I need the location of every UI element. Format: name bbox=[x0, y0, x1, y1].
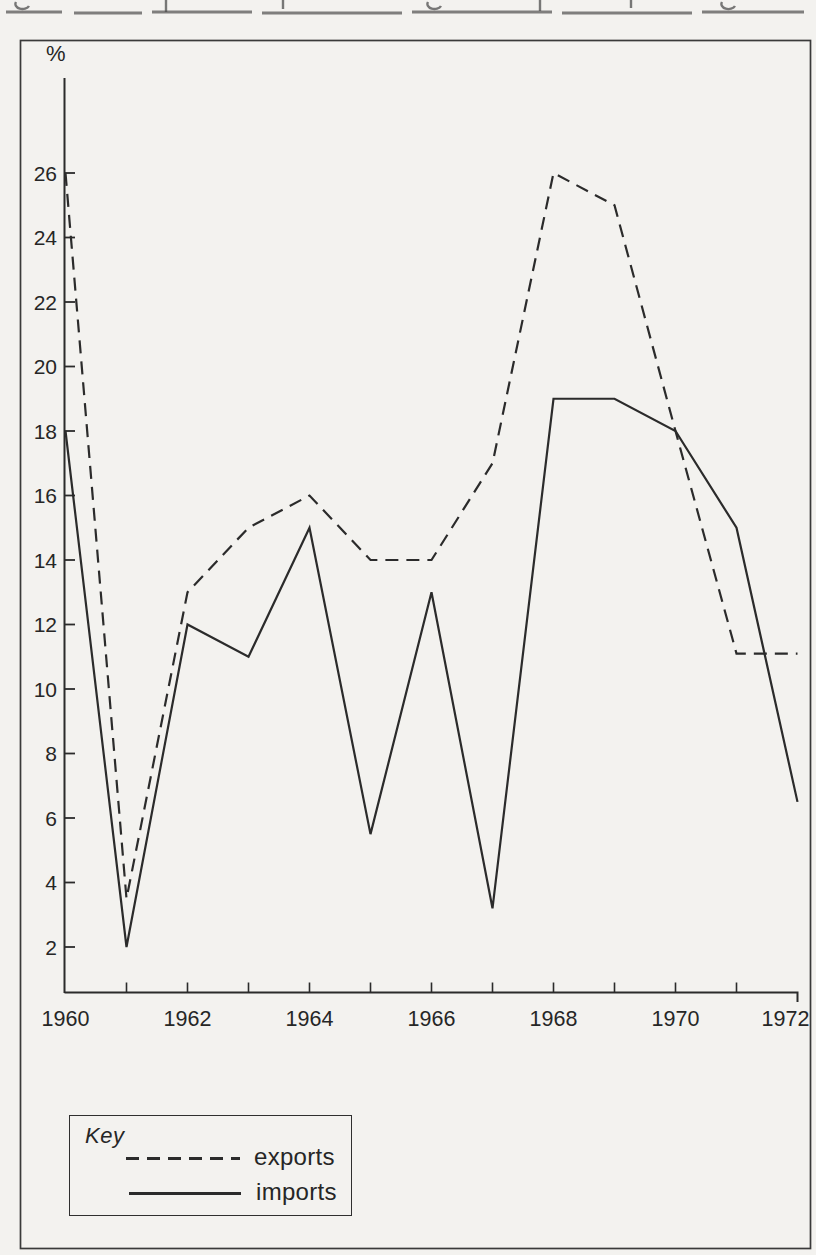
x-tick-label: 1964 bbox=[286, 1007, 334, 1031]
y-tick-label: 2 bbox=[45, 936, 57, 959]
y-tick-label: 4 bbox=[45, 871, 57, 894]
imports-line bbox=[66, 399, 798, 947]
legend-title: Key bbox=[85, 1123, 124, 1149]
x-tick-label: 1960 bbox=[42, 1007, 90, 1031]
imports-solid-line-sample bbox=[129, 1192, 241, 1195]
y-tick-label: 18 bbox=[34, 420, 57, 443]
exports-imports-line-chart: 2624222018161412108642196019621964196619… bbox=[0, 0, 816, 1255]
x-axis bbox=[65, 993, 798, 1003]
y-tick-label: 20 bbox=[34, 355, 57, 378]
scanned-book-figure-page: 2624222018161412108642196019621964196619… bbox=[0, 0, 816, 1255]
figure-frame bbox=[21, 41, 811, 1249]
legend-label-imports: imports bbox=[256, 1178, 337, 1206]
x-tick-label: 1968 bbox=[530, 1007, 578, 1031]
cropped-caption-descenders bbox=[15, 0, 735, 12]
y-tick-label: 6 bbox=[45, 807, 57, 830]
y-tick-label: 24 bbox=[34, 226, 58, 249]
y-axis-unit-label: % bbox=[46, 43, 66, 65]
x-tick-label: 1972 bbox=[762, 1007, 810, 1031]
y-tick-label: 10 bbox=[34, 678, 57, 701]
cropped-caption-baseline-fragment bbox=[6, 12, 804, 13]
exports-line bbox=[66, 173, 798, 899]
exports-dashed-line-sample bbox=[126, 1157, 240, 1160]
x-tick-label: 1966 bbox=[408, 1007, 456, 1031]
legend-key-box: Key exports imports bbox=[69, 1115, 352, 1216]
y-tick-label: 16 bbox=[34, 484, 57, 507]
y-tick-label: 26 bbox=[34, 162, 57, 185]
x-tick-label: 1970 bbox=[652, 1007, 700, 1031]
y-tick-label: 8 bbox=[45, 742, 57, 765]
y-tick-label: 12 bbox=[34, 613, 57, 636]
x-tick-label: 1962 bbox=[164, 1007, 212, 1031]
legend-label-exports: exports bbox=[254, 1143, 335, 1171]
y-tick-label: 22 bbox=[34, 291, 57, 314]
y-tick-label: 14 bbox=[34, 549, 58, 572]
